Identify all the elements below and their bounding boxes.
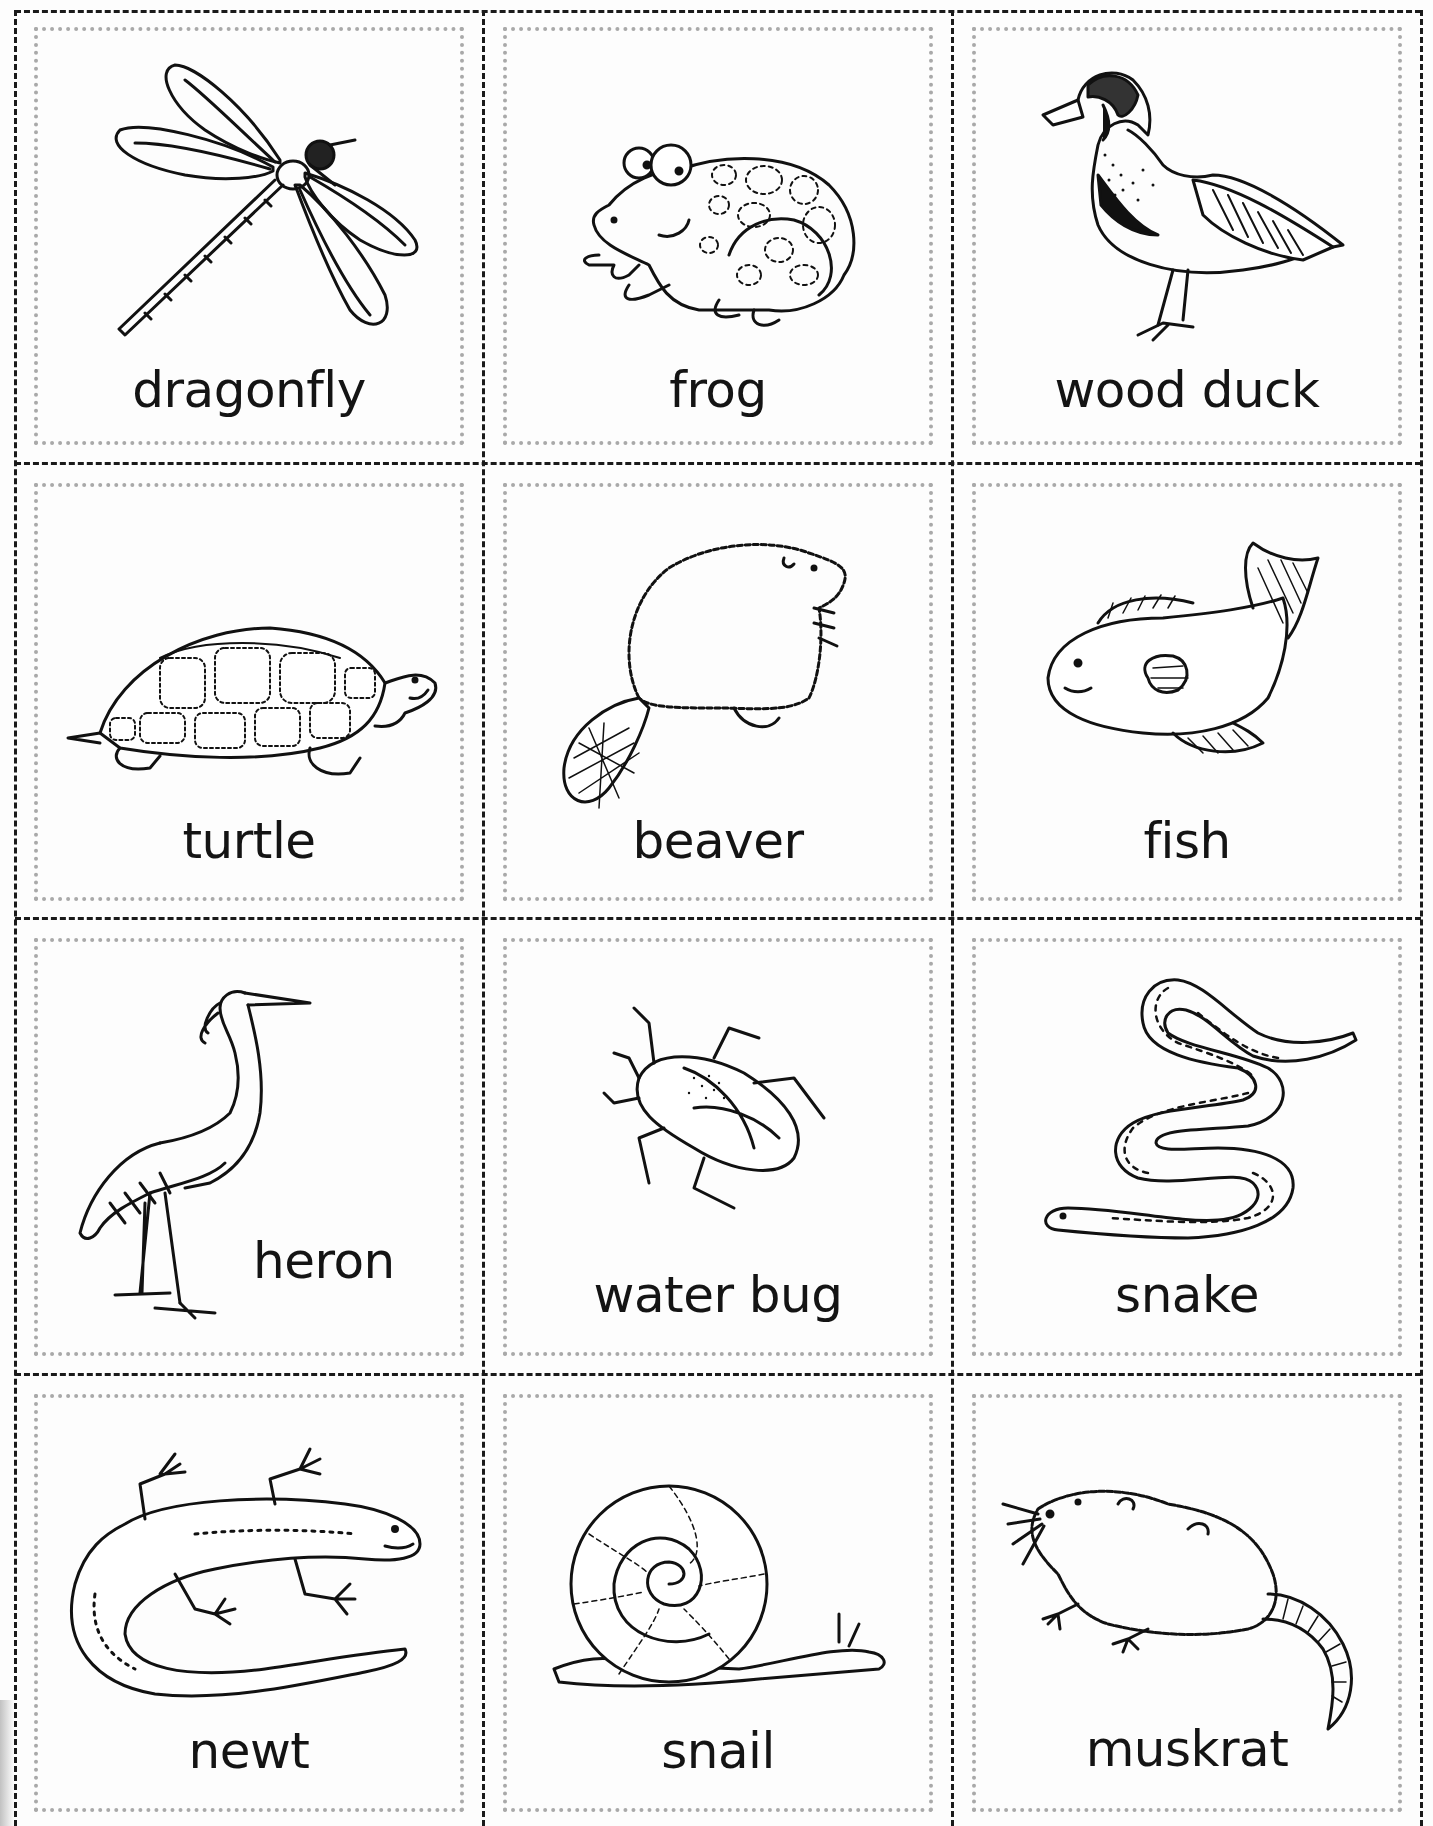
newt-illustration (65, 1444, 435, 1704)
water-bug-illustration (594, 998, 844, 1228)
card-label: dragonfly (132, 365, 366, 415)
card-label: heron (253, 1236, 395, 1286)
card-wood-duck: wood duck (953, 10, 1421, 463)
card-heron: heron (15, 918, 483, 1374)
card-label: turtle (182, 816, 315, 866)
card-label: frog (669, 365, 766, 415)
fish-illustration (1043, 538, 1343, 778)
card-label: fish (1143, 816, 1230, 866)
card-sheet: dragonfly frog (0, 0, 1433, 1826)
card-turtle: turtle (15, 463, 483, 918)
card-label: newt (189, 1726, 310, 1776)
card-dragonfly: dragonfly (15, 10, 483, 463)
card-beaver: beaver (484, 463, 952, 918)
card-water-bug: water bug (484, 918, 952, 1374)
card-snail: snail (484, 1374, 952, 1826)
card-label: beaver (632, 816, 803, 866)
muskrat-illustration (998, 1474, 1388, 1744)
snake-illustration (1038, 968, 1358, 1238)
card-muskrat: muskrat (953, 1374, 1421, 1826)
card-label: snail (661, 1726, 775, 1776)
turtle-illustration (60, 608, 450, 788)
card-label: muskrat (1086, 1724, 1289, 1774)
card-label: wood duck (1054, 365, 1319, 415)
snail-illustration (539, 1474, 909, 1694)
wood-duck-illustration (1043, 55, 1363, 355)
card-label: water bug (593, 1270, 842, 1320)
card-frog: frog (484, 10, 952, 463)
frog-illustration (569, 125, 869, 345)
card-newt: newt (15, 1374, 483, 1826)
card-fish: fish (953, 463, 1421, 918)
card-label: snake (1115, 1270, 1259, 1320)
card-snake: snake (953, 918, 1421, 1374)
scan-shadow (0, 1700, 14, 1826)
beaver-illustration (549, 528, 889, 818)
dragonfly-illustration (95, 45, 455, 365)
